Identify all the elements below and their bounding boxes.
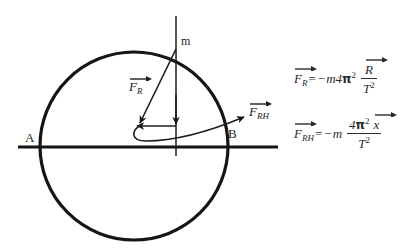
label-mass-m: m	[181, 35, 190, 47]
eq1-mass: m	[326, 71, 335, 86]
eq2-minus-sign: −	[323, 126, 332, 141]
force-horizontal-subscript: RH	[257, 111, 269, 121]
eq2-denominator: T2	[347, 134, 381, 151]
eq1-lhs-symbol: F	[294, 71, 302, 86]
eq1-minus-sign: −	[317, 71, 326, 86]
eq1-numerator: R	[361, 61, 377, 79]
force-radial-symbol: F	[129, 79, 137, 94]
equation-horizontal-force: F RH=−m 4π2 x T2	[294, 117, 382, 152]
eq1-denominator-exponent: 2	[370, 80, 375, 90]
label-point-a: A	[25, 131, 34, 144]
eq2-denominator-exponent: 2	[366, 135, 371, 145]
eq2-equals: =	[314, 126, 323, 141]
vector-arrow-group-eq2-num: x	[374, 116, 380, 132]
vector-arrow-group-eq2-lhs: F	[294, 125, 302, 141]
force-horizontal-symbol: F	[249, 104, 257, 119]
vector-arrow-group-frh: F	[249, 105, 257, 118]
equation-radial-force: F R=−m4π2 R T2	[294, 62, 378, 97]
eq1-numerator-symbol: R	[365, 62, 373, 77]
vector-arrow-group-eq1-num: R	[365, 61, 373, 77]
eq1-pi-exponent: 2	[352, 70, 357, 80]
eq1-equals: =	[307, 71, 316, 86]
eq2-numerator-symbol: x	[374, 117, 380, 132]
eq2-denominator-symbol: T	[358, 136, 365, 151]
eq2-mass: m	[333, 126, 342, 141]
eq2-lhs-symbol: F	[294, 126, 302, 141]
eq2-lhs-subscript: RH	[302, 133, 314, 143]
eq1-fraction: R T2	[361, 61, 377, 96]
vector-arrow-group-eq1-lhs: F	[294, 70, 302, 86]
eq2-pi: π	[356, 118, 366, 132]
eq1-pi: π	[342, 72, 352, 86]
eq2-fraction: 4π2 x T2	[347, 116, 381, 151]
eq2-numerator: 4π2 x	[347, 116, 381, 134]
vector-arrow-group-fr: F	[129, 80, 137, 93]
label-force-radial: F R	[129, 80, 142, 96]
label-force-horizontal: F RH	[249, 105, 269, 121]
eq2-pi-exponent: 2	[365, 116, 370, 126]
radial-force-vector-arrow	[140, 49, 176, 123]
label-point-b: B	[228, 127, 237, 140]
force-radial-subscript: R	[137, 86, 143, 96]
eq1-denominator: T2	[361, 79, 377, 96]
